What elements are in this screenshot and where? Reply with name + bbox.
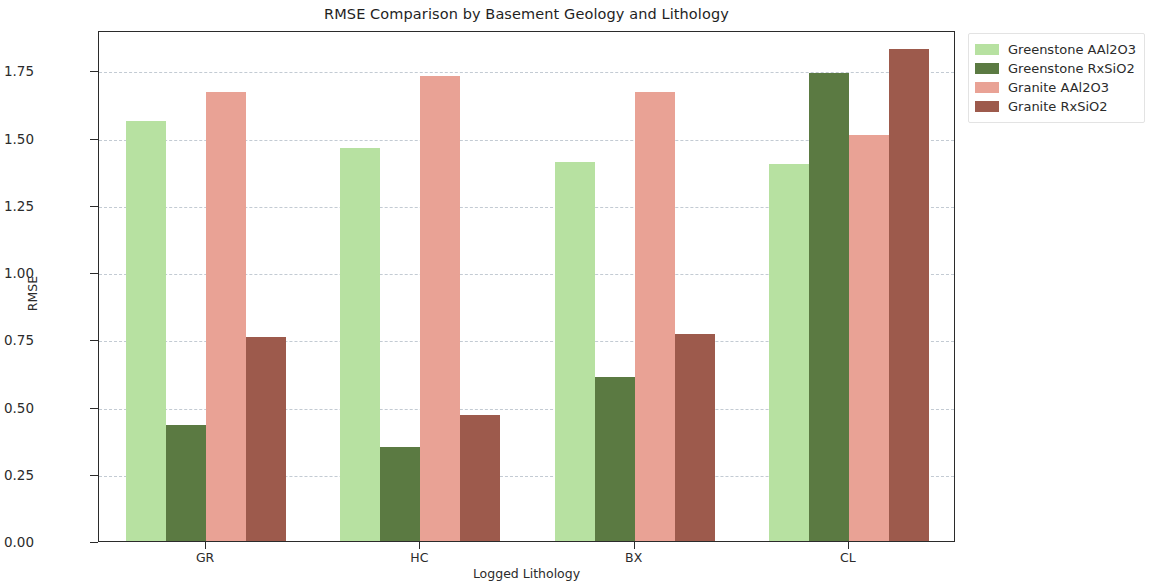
- plot-area: [98, 31, 955, 542]
- bar: [555, 162, 595, 541]
- y-axis: 0.000.250.500.751.001.251.501.75 RMSE: [0, 0, 98, 585]
- bar: [889, 49, 929, 541]
- y-axis-tick-mark: [90, 71, 98, 72]
- bar: [420, 76, 460, 541]
- y-axis-tick-mark: [90, 139, 98, 140]
- legend-swatch-icon: [975, 63, 999, 74]
- y-axis-tick-mark: [90, 206, 98, 207]
- bar: [769, 164, 809, 541]
- y-axis-tick-label: 0.75: [4, 332, 34, 348]
- bar: [380, 447, 420, 541]
- legend-swatch-icon: [975, 44, 999, 55]
- x-axis-tick-mark: [419, 542, 420, 549]
- bar: [460, 415, 500, 541]
- chart-title: RMSE Comparison by Basement Geology and …: [98, 6, 955, 22]
- bar: [206, 92, 246, 541]
- x-axis-title: Logged Lithology: [98, 566, 955, 581]
- bar: [166, 425, 206, 541]
- x-axis-tick-label: GR: [196, 550, 214, 565]
- y-axis-tick-mark: [90, 273, 98, 274]
- legend-item: Greenstone RxSiO2: [975, 59, 1136, 78]
- y-axis-tick-label: 0.50: [4, 400, 34, 416]
- bar: [340, 148, 380, 541]
- bar: [126, 121, 166, 541]
- legend-item: Granite RxSiO2: [975, 97, 1136, 116]
- chart-legend: Greenstone AAl2O3Greenstone RxSiO2Granit…: [968, 33, 1145, 123]
- legend-label: Granite AAl2O3: [1008, 80, 1109, 95]
- x-axis-tick-mark: [205, 542, 206, 549]
- y-axis-tick-mark: [90, 340, 98, 341]
- legend-label: Greenstone RxSiO2: [1008, 61, 1135, 76]
- x-axis-tick-label: HC: [410, 550, 428, 565]
- legend-label: Granite RxSiO2: [1008, 99, 1108, 114]
- x-axis-tick-label: BX: [625, 550, 642, 565]
- bar: [675, 334, 715, 541]
- y-axis-tick-mark: [90, 475, 98, 476]
- legend-swatch-icon: [975, 101, 999, 112]
- legend-label: Greenstone AAl2O3: [1008, 42, 1136, 57]
- y-axis-tick-mark: [90, 408, 98, 409]
- bar: [849, 135, 889, 541]
- y-axis-tick-label: 0.00: [4, 534, 34, 550]
- x-axis-tick-mark: [848, 542, 849, 549]
- y-axis-tick-label: 1.75: [4, 63, 34, 79]
- bar: [595, 377, 635, 541]
- y-axis-title: RMSE: [25, 254, 40, 334]
- legend-item: Granite AAl2O3: [975, 78, 1136, 97]
- legend-swatch-icon: [975, 82, 999, 93]
- x-axis-tick-label: CL: [840, 550, 856, 565]
- y-axis-tick-label: 0.25: [4, 467, 34, 483]
- x-axis-tick-mark: [634, 542, 635, 549]
- legend-item: Greenstone AAl2O3: [975, 40, 1136, 59]
- chart-figure: RMSE Comparison by Basement Geology and …: [0, 0, 1154, 585]
- bar: [635, 92, 675, 541]
- y-axis-tick-mark: [90, 542, 98, 543]
- bar: [809, 73, 849, 541]
- y-axis-tick-label: 1.50: [4, 131, 34, 147]
- bar: [246, 337, 286, 541]
- y-axis-tick-label: 1.25: [4, 198, 34, 214]
